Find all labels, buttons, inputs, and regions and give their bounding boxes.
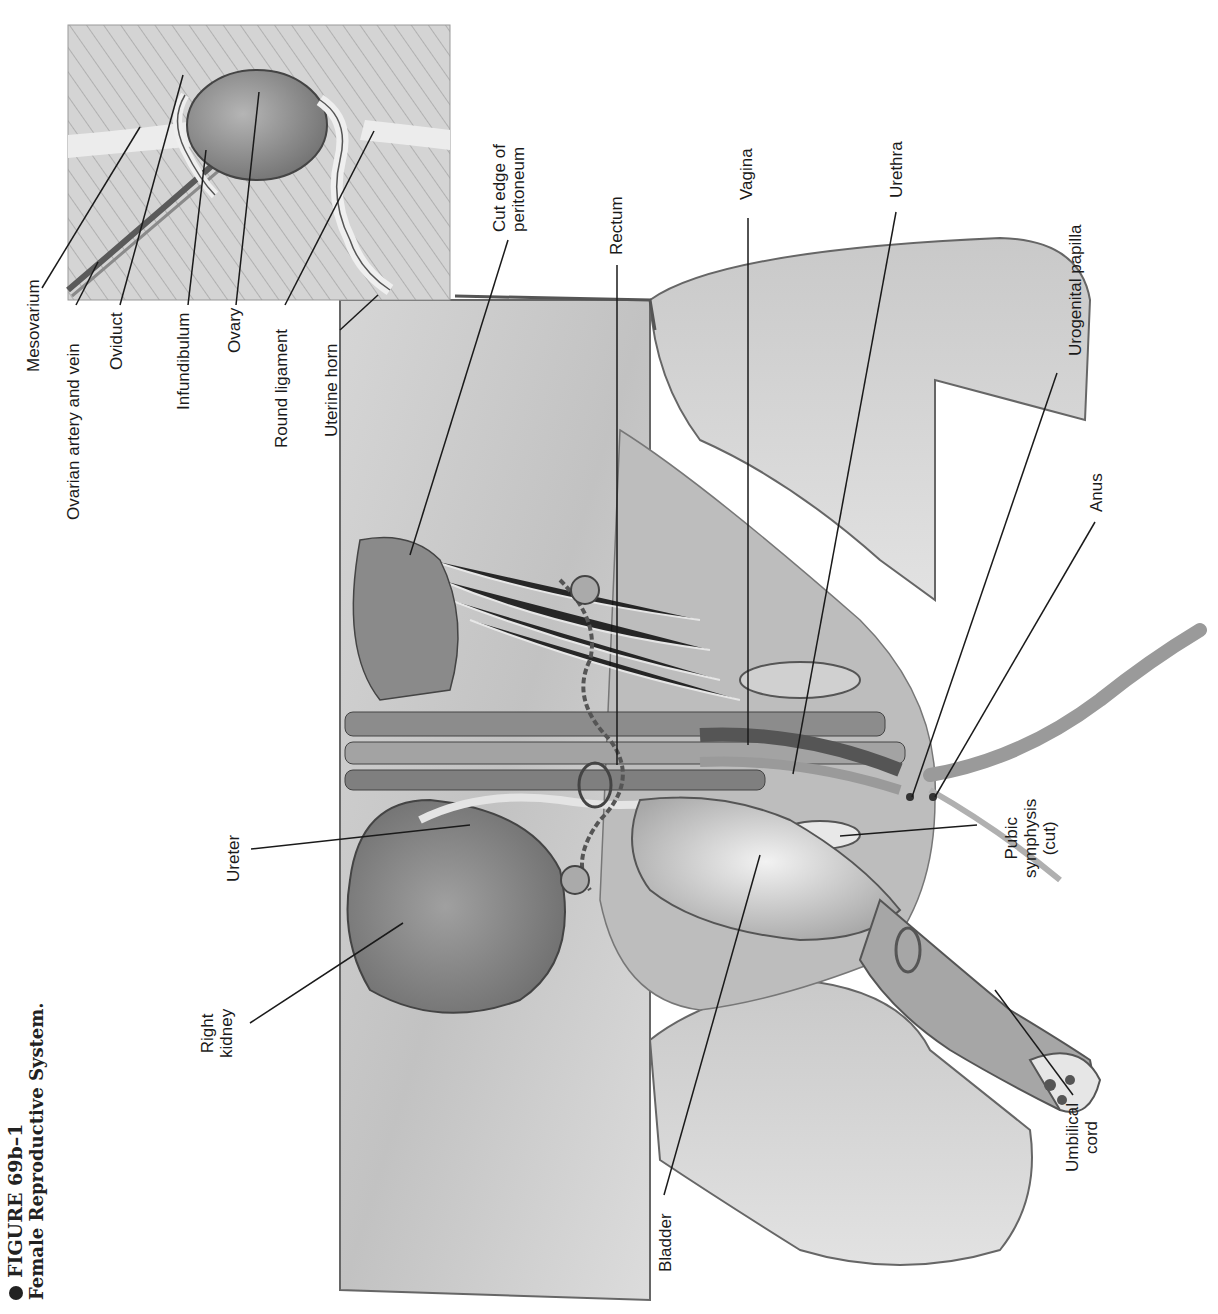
figure-number: FIGURE 69b–1 (4, 1002, 26, 1300)
label-rectum: Rectum (607, 196, 626, 255)
bullet-icon (9, 1286, 23, 1300)
label-anus: Anus (1087, 473, 1106, 512)
label-pubic-line1: Pubic (1002, 817, 1021, 860)
figure-title: Female Reproductive System. (26, 1002, 48, 1300)
label-vagina: Vagina (737, 148, 756, 200)
label-round-ligament: Round ligament (272, 329, 291, 448)
figure: FIGURE 69b–1 Female Reproductive System.… (0, 0, 1218, 1314)
label-cut-edge-line1: Cut edge of (490, 144, 509, 232)
label-urogenital-papilla: Urogenital papilla (1066, 225, 1085, 356)
label-ureter: Ureter (224, 835, 243, 882)
ovary-inset (68, 25, 450, 300)
label-cut-edge-peritoneum: Cut edge of peritoneum (490, 144, 528, 232)
label-cut-edge-line2: peritoneum (509, 147, 528, 232)
label-kidney-line1: Right (198, 1014, 217, 1054)
label-umbilical-line2: cord (1082, 1121, 1101, 1154)
label-pubic-line3: (cut) (1040, 821, 1059, 855)
label-umbilical-cord: Umbilical cord (1063, 1103, 1101, 1172)
label-mesovarium: Mesovarium (24, 279, 43, 372)
figure-caption: FIGURE 69b–1 Female Reproductive System. (4, 1002, 48, 1300)
label-right-kidney: Right kidney (198, 1009, 236, 1058)
label-oviduct: Oviduct (107, 312, 126, 370)
label-pubic-symphysis: Pubic symphysis (cut) (1002, 799, 1059, 878)
label-infundibulum: Infundibulum (174, 313, 193, 410)
label-uterine-horn: Uterine horn (322, 343, 341, 437)
label-bladder: Bladder (656, 1213, 675, 1272)
label-umbilical-line1: Umbilical (1063, 1103, 1082, 1172)
label-pubic-line2: symphysis (1021, 799, 1040, 878)
label-ovarian-artery-vein: Ovarian artery and vein (64, 343, 83, 520)
figure-number-text: FIGURE 69b–1 (4, 1123, 26, 1278)
label-urethra: Urethra (887, 141, 906, 198)
label-kidney-line2: kidney (217, 1009, 236, 1058)
label-ovary: Ovary (225, 308, 244, 353)
